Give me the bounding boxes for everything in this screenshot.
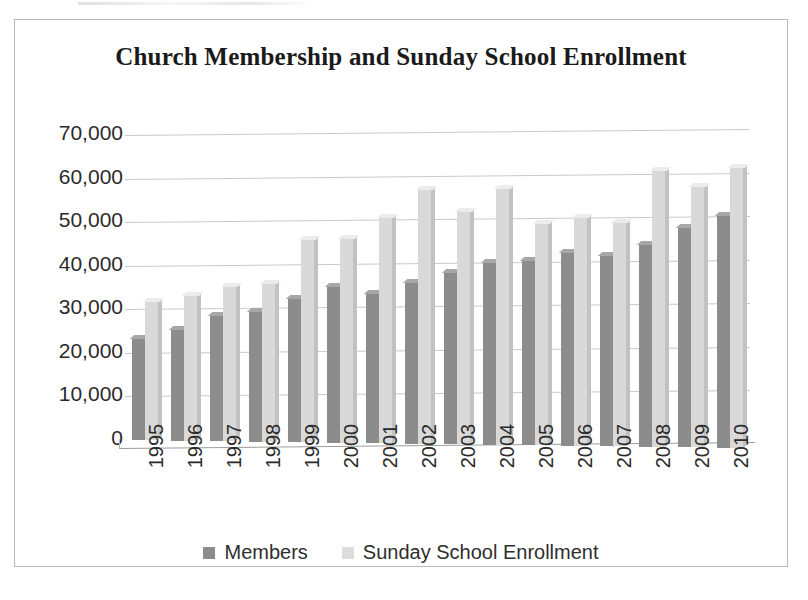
- legend-item-sunday[interactable]: Sunday School Enrollment: [342, 541, 599, 564]
- bar-face: [301, 239, 314, 442]
- bar-group: [242, 135, 281, 440]
- y-axis-tick-label: 10,000: [15, 382, 123, 406]
- bar-group: [594, 135, 633, 440]
- bar-group: [477, 135, 516, 440]
- bar-group: [516, 135, 555, 440]
- bar-members-2006: [561, 252, 574, 446]
- bar-members-1999: [288, 298, 301, 442]
- bar-members-2003: [444, 272, 457, 444]
- x-axis-tick-1995: 1995: [125, 444, 164, 536]
- bar-face: [379, 217, 392, 444]
- x-axis-tick-2004: 2004: [477, 444, 516, 536]
- bar-face: [171, 329, 184, 440]
- bar-face: [184, 295, 197, 441]
- bar-face: [405, 282, 418, 443]
- bar-face: [210, 315, 223, 441]
- x-axis-tick-2001: 2001: [359, 444, 398, 536]
- bar-face: [145, 301, 158, 440]
- bar-face: [691, 186, 704, 447]
- bar-sunday-school-2001: [379, 217, 392, 444]
- bar-members-2008: [639, 244, 652, 447]
- x-axis-tick-2003: 2003: [438, 444, 477, 536]
- bar-members-2004: [483, 262, 496, 445]
- bar-face: [444, 272, 457, 444]
- bar-face: [652, 170, 665, 447]
- bar-group: [438, 135, 477, 440]
- x-axis-tick-1999: 1999: [281, 444, 320, 536]
- x-axis-labels: 1995199619971998199920002001200220032004…: [125, 444, 750, 536]
- y-axis-tick-label: 40,000: [15, 252, 123, 276]
- bar-members-1998: [249, 311, 262, 442]
- bar-side: [353, 235, 357, 443]
- bar-group: [359, 135, 398, 440]
- plot-area: [125, 135, 750, 440]
- bar-side: [392, 213, 396, 443]
- bar-face: [574, 217, 587, 446]
- bar-sunday-school-2004: [496, 188, 509, 445]
- bar-group: [320, 135, 359, 440]
- bar-side: [587, 214, 591, 446]
- bar-group: [203, 135, 242, 440]
- bar-side: [743, 164, 747, 448]
- bar-face: [535, 223, 548, 445]
- bar-group: [555, 135, 594, 440]
- bar-members-2000: [327, 286, 340, 443]
- bar-group: [711, 135, 750, 440]
- bar-members-2002: [405, 282, 418, 443]
- bar-face: [483, 262, 496, 445]
- x-axis-tick-1997: 1997: [203, 444, 242, 536]
- x-axis-tick-2010: 2010: [711, 444, 750, 536]
- bar-face: [366, 293, 379, 443]
- bar-face: [678, 227, 691, 447]
- scan-artifact-strip: [78, 2, 308, 5]
- bar-face: [717, 215, 730, 448]
- bar-face: [457, 211, 470, 444]
- x-axis-tick-label: 2010: [730, 424, 753, 469]
- y-axis-tick-label: 0: [15, 426, 123, 450]
- bar-members-2009: [678, 227, 691, 447]
- bar-sunday-school-1999: [301, 239, 314, 442]
- bar-members-2007: [600, 255, 613, 447]
- chart-legend: MembersSunday School Enrollment: [15, 541, 787, 564]
- bar-side: [548, 220, 552, 445]
- bar-face: [730, 167, 743, 448]
- bar-top: [142, 298, 163, 302]
- bar-face: [262, 283, 275, 442]
- bar-side: [431, 186, 435, 444]
- bar-side: [158, 297, 162, 440]
- x-axis-tick-2005: 2005: [516, 444, 555, 536]
- bar-face: [600, 255, 613, 447]
- x-axis-tick-2008: 2008: [633, 444, 672, 536]
- bar-sunday-school-2008: [652, 170, 665, 447]
- legend-swatch-icon: [342, 547, 354, 559]
- bar-group: [125, 135, 164, 440]
- y-axis-labels: 70,00060,00050,00040,00030,00020,00010,0…: [15, 133, 123, 443]
- bar-sunday-school-2005: [535, 223, 548, 445]
- bar-face: [639, 244, 652, 447]
- bar-top: [181, 292, 202, 296]
- chart-title: Church Membership and Sunday School Enro…: [15, 42, 787, 72]
- bar-face: [418, 189, 431, 444]
- bar-sunday-school-2007: [613, 222, 626, 446]
- y-axis-tick-label: 60,000: [15, 165, 123, 189]
- x-axis-tick-1998: 1998: [242, 444, 281, 536]
- bar-side: [665, 167, 669, 447]
- bar-side: [509, 184, 513, 444]
- y-axis-tick-label: 70,000: [15, 121, 123, 145]
- bar-sunday-school-2009: [691, 186, 704, 447]
- bar-face: [340, 238, 353, 443]
- bar-sunday-school-2006: [574, 217, 587, 446]
- bar-sunday-school-2010: [730, 167, 743, 448]
- y-axis-tick-label: 50,000: [15, 208, 123, 232]
- bar-face: [132, 338, 145, 440]
- bar-members-2001: [366, 293, 379, 443]
- x-axis-tick-2009: 2009: [672, 444, 711, 536]
- bar-face: [561, 252, 574, 446]
- y-axis-tick-label: 30,000: [15, 295, 123, 319]
- bar-sunday-school-1998: [262, 283, 275, 442]
- chart-frame: Church Membership and Sunday School Enro…: [14, 19, 788, 567]
- bar-sunday-school-2002: [418, 189, 431, 444]
- bar-face: [496, 188, 509, 445]
- bar-sunday-school-1997: [223, 286, 236, 441]
- legend-item-members[interactable]: Members: [203, 541, 307, 564]
